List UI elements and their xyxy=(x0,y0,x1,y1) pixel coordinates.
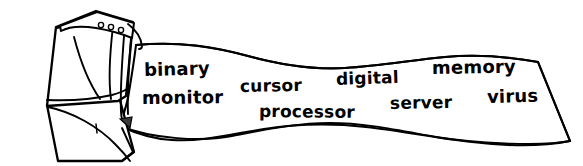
indicator-light-2 xyxy=(108,24,113,29)
printed-word-binary: binary xyxy=(144,59,210,79)
printed-word-server: server xyxy=(390,94,453,112)
printed-word-digital: digital xyxy=(336,69,399,88)
printer-group xyxy=(47,11,142,161)
printed-word-monitor: monitor xyxy=(142,88,224,107)
indicator-light-1 xyxy=(98,22,103,27)
printer-base-tick xyxy=(96,124,97,133)
printed-word-memory: memory xyxy=(432,58,516,77)
printed-word-cursor: cursor xyxy=(240,77,302,95)
printed-word-processor: processor xyxy=(259,103,355,121)
printed-word-virus: virus xyxy=(487,87,539,106)
indicator-light-3 xyxy=(118,27,123,32)
illustration-canvas: binary monitor cursor processor digital … xyxy=(0,0,583,166)
